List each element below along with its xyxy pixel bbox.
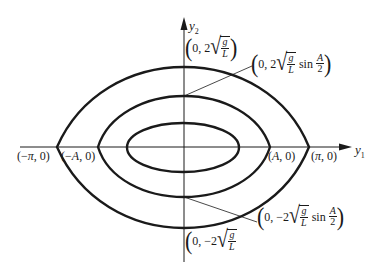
sin-fn: sin — [312, 211, 326, 223]
paren-close: ) — [337, 204, 344, 229]
denominator: L — [300, 218, 308, 229]
denominator: L — [228, 242, 236, 253]
radical-icon: √ — [276, 50, 287, 78]
y1-axis-arrow-icon — [339, 144, 352, 151]
rest: , 0) — [34, 149, 50, 163]
paren-open: ( — [257, 204, 264, 229]
rest: , 0) — [79, 149, 95, 163]
leader-line-bottom — [184, 197, 257, 222]
numerator: g — [300, 206, 308, 218]
rest: , 0) — [321, 149, 337, 163]
label-top-outer: (0, 2√gL) — [185, 36, 237, 59]
rest: , 0) — [279, 149, 295, 163]
fraction: gL — [221, 37, 229, 59]
paren-close: ) — [324, 51, 331, 76]
fraction: gL — [228, 230, 236, 252]
minus: − — [21, 149, 28, 163]
y1-axis-label: y1 — [355, 143, 365, 160]
label-bottom-middle: (0, −2√gLsinA2) — [257, 205, 344, 228]
label-pos-pi: (π, 0) — [311, 150, 337, 162]
numerator: g — [287, 53, 295, 65]
sqrt: √gL — [217, 229, 237, 252]
label-bottom-outer: (0, −2√gL — [185, 229, 237, 252]
fraction: gL — [300, 206, 308, 228]
paren-close: ) — [230, 35, 237, 60]
sqrt-body: gL — [299, 205, 309, 228]
prefix: 0, 2 — [258, 58, 276, 70]
denominator: L — [287, 65, 295, 76]
label-neg-pi: (−π, 0) — [17, 150, 50, 162]
sin-fn: sin — [299, 58, 313, 70]
paren-open: ( — [251, 51, 258, 76]
paren-open: ( — [185, 228, 192, 253]
y1-label-sub: 1 — [361, 151, 365, 160]
sqrt-body: gL — [227, 229, 237, 252]
fraction: gL — [287, 53, 295, 75]
y2-label-sub: 2 — [195, 27, 199, 36]
prefix: 0, −2 — [192, 235, 217, 247]
label-top-middle: (0, 2√gLsinA2) — [251, 52, 331, 75]
sqrt: √gL — [210, 36, 230, 59]
minus: − — [65, 149, 72, 163]
denominator: L — [221, 49, 229, 60]
sqrt: √gL — [276, 52, 296, 75]
label-pos-A: (A, 0) — [268, 150, 295, 162]
prefix: 0, 2 — [192, 42, 210, 54]
label-neg-A: (−A, 0) — [61, 150, 95, 162]
radical-icon: √ — [289, 203, 300, 231]
fraction-half-A: A2 — [329, 206, 337, 228]
denominator: 2 — [329, 217, 337, 228]
sqrt: √gL — [289, 205, 309, 228]
denominator: 2 — [316, 64, 324, 75]
numerator: g — [221, 37, 229, 49]
sqrt-body: gL — [286, 52, 296, 75]
prefix: 0, −2 — [264, 211, 289, 223]
radical-icon: √ — [217, 227, 228, 255]
y2-axis-arrow-icon — [181, 17, 188, 30]
numerator: g — [228, 230, 236, 242]
sqrt-body: gL — [220, 36, 230, 59]
fraction-half-A: A2 — [316, 53, 324, 75]
paren-open: ( — [185, 35, 192, 60]
radical-icon: √ — [210, 34, 221, 62]
